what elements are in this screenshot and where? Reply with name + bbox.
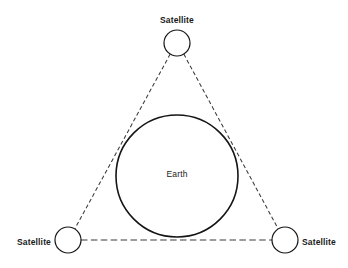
satellite-top-label: Satellite <box>160 15 194 25</box>
earth-body: Earth <box>116 115 238 237</box>
satellite-bottom-right: Satellite <box>272 227 336 253</box>
satellite-bottom-left-label: Satellite <box>17 237 51 247</box>
earth-label: Earth <box>166 169 187 179</box>
satellite-bottom-left-circle <box>55 227 81 253</box>
satellite-bottom-right-label: Satellite <box>302 237 336 247</box>
satellite-coverage-diagram: Earth Satellite Satellite Satellite <box>0 0 348 268</box>
diagram-canvas: Earth Satellite Satellite Satellite <box>0 0 348 268</box>
satellite-top-circle <box>164 30 190 56</box>
satellite-bottom-right-circle <box>272 227 298 253</box>
satellite-top: Satellite <box>160 15 194 56</box>
satellite-bottom-left: Satellite <box>17 227 81 253</box>
